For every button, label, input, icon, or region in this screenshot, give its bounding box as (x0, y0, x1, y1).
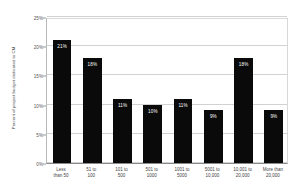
bar-value-label: 9% (264, 114, 283, 119)
y-tick-label: 10% (34, 103, 43, 108)
x-tick-label: Lessthan 50 (46, 167, 76, 179)
bar-value-label: 21% (53, 44, 72, 49)
bar[interactable]: 11% (174, 99, 193, 163)
bar-slot: 11% (174, 19, 193, 163)
y-tick-label: 0% (36, 162, 43, 167)
x-axis-labels: Lessthan 5051 to100101 to500501 to100010… (46, 167, 288, 189)
y-tick-label: 25% (34, 16, 43, 21)
bar-slot: 9% (264, 19, 283, 163)
bar-slot: 9% (204, 19, 223, 163)
bar[interactable]: 18% (234, 58, 253, 163)
bar-slot: 18% (83, 19, 102, 163)
x-tick-label: 101 to500 (107, 167, 137, 179)
bar[interactable]: 18% (83, 58, 102, 163)
bar-value-label: 18% (234, 62, 253, 67)
plot-area: 21%18%11%10%11%9%18%9% (46, 18, 288, 164)
y-tick-label: 15% (34, 74, 43, 79)
bar[interactable]: 11% (113, 99, 132, 163)
bar-value-label: 9% (204, 114, 223, 119)
bar-value-label: 11% (113, 103, 132, 108)
bar-slot: 18% (234, 19, 253, 163)
y-axis-ticks: 25%20%15%10%5%0% (0, 18, 46, 164)
x-tick-label: 51 to100 (76, 167, 106, 179)
bar-value-label: 18% (83, 62, 102, 67)
x-tick-label: 5001 to10,000 (197, 167, 227, 179)
bar-value-label: 10% (143, 109, 162, 114)
bar[interactable]: 9% (264, 110, 283, 163)
bar[interactable]: 10% (143, 105, 162, 163)
gridline (47, 16, 287, 17)
x-tick-label: 1001 to5000 (167, 167, 197, 179)
bar[interactable]: 9% (204, 110, 223, 163)
bar-slot: 10% (143, 19, 162, 163)
bar-value-label: 11% (174, 103, 193, 108)
y-tick-label: 5% (36, 132, 43, 137)
bar-slot: 21% (53, 19, 72, 163)
y-tick-label: 20% (34, 45, 43, 50)
bar-chart: Percent of project budget dedicated to C… (0, 0, 300, 192)
bar-slot: 11% (113, 19, 132, 163)
x-tick-label: 501 to1000 (137, 167, 167, 179)
x-tick-label: 10,001 to20,000 (228, 167, 258, 179)
x-tick-label: More than20,000 (258, 167, 288, 179)
bar-series: 21%18%11%10%11%9%18%9% (47, 19, 287, 163)
bar[interactable]: 21% (53, 40, 72, 163)
